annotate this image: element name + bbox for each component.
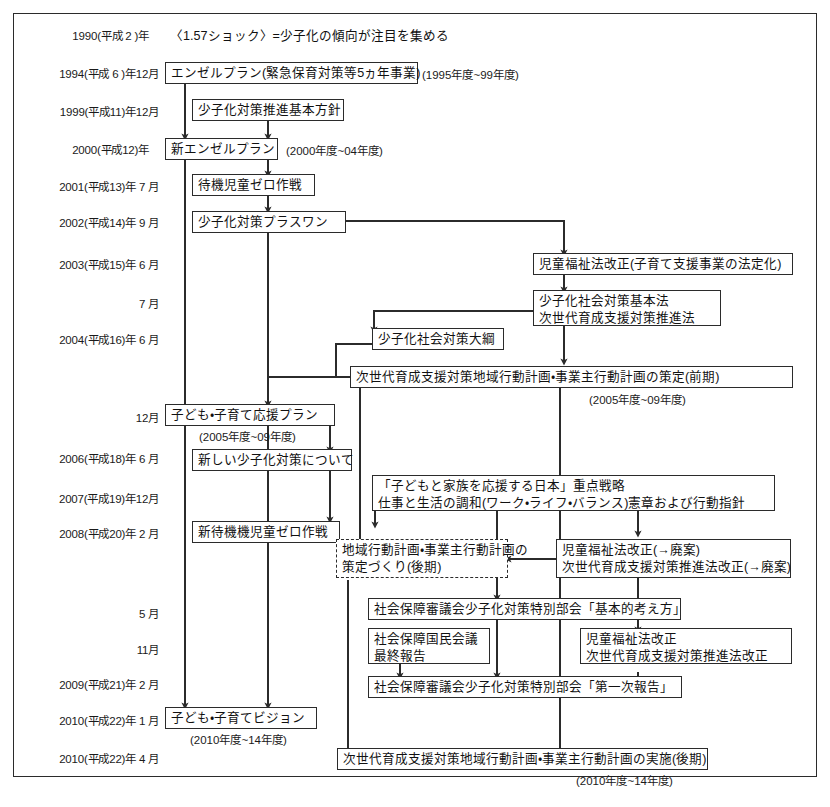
date-label-2003: 2003(平成15)年 6 月 (14, 256, 159, 272)
box-zero-waiting-2001[interactable]: 待機児童ゼロ作戦 (192, 174, 315, 196)
box-new-zero-waiting-2008[interactable]: 新待機機児童ゼロ作戦 (192, 521, 340, 543)
box-national-council-line2: 最終報告 (374, 648, 484, 665)
date-label-1999: 1999(平成11)年12月 (14, 103, 159, 119)
box-local-plan-late[interactable]: 地域行動計画・事業主行動計画の 策定づくり(後期) (336, 539, 508, 578)
date-label-2002: 2002(平成14)年 9 月 (14, 214, 159, 230)
date-label-2004-dec: 12月 (14, 409, 159, 425)
note-angel-plan-period: (1995年度~99年度) (422, 66, 519, 82)
date-label-2003-july: 7 月 (14, 295, 159, 311)
box-law-revision-2008-line2: 次世代育成支援対策推進法改正 (586, 648, 786, 665)
date-label-2008-may: 5 月 (14, 605, 159, 621)
box-local-plan-early[interactable]: 次世代育成支援対策地域行動計画・事業主行動計画の策定(前期) (350, 366, 793, 388)
box-strategy-2007-line1: 「子どもと家族を応援する日本」重点戦略 (378, 478, 769, 495)
date-label-2004: 2004(平成16)年 6 月 (14, 331, 159, 347)
box-new-measures-2006[interactable]: 新しい少子化対策について (192, 449, 352, 471)
box-basic-law-2003-line1: 少子化社会対策基本法 (539, 293, 715, 310)
event-1990-shock: 〈1.57ショック〉=少子化の傾向が注目を集める (170, 25, 449, 44)
box-council-basic-2008[interactable]: 社会保障審議会少子化対策特別部会「基本的考え方」 (368, 598, 681, 620)
box-strategy-2007-line2: 仕事と生活の調和(ワーク・ライフ・バランス)憲章および行動指針 (378, 495, 769, 512)
date-label-2006: 2006(平成18)年 6 月 (14, 450, 159, 466)
box-basic-law-2003-line2: 次世代育成支援対策推進法 (539, 310, 715, 327)
box-outline-2004[interactable]: 少子化社会対策大綱 (372, 328, 504, 350)
box-basic-policy-1999[interactable]: 少子化対策推進基本方針 (192, 99, 344, 121)
note-local-plan-impl-late-period: (2010年度~14年度) (576, 772, 673, 788)
date-label-2009: 2009(平成21)年 2 月 (14, 676, 159, 692)
date-label-2010-apr: 2010(平成22)年 4 月 (14, 750, 159, 766)
box-support-plan-2004[interactable]: 子ども・子育て応援プラン (165, 404, 335, 426)
box-law-revision-2008-line1: 児童福祉法改正 (586, 631, 786, 648)
date-label-2008-nov: 11月 (14, 641, 159, 657)
box-law-revision-abolished-line1: 児童福祉法改正(→廃案) (562, 542, 785, 559)
box-law-revision-2008[interactable]: 児童福祉法改正 次世代育成支援対策推進法改正 (580, 628, 792, 664)
date-label-2000: 2000(平成12)年 (24, 141, 149, 157)
box-strategy-2007[interactable]: 「子どもと家族を応援する日本」重点戦略 仕事と生活の調和(ワーク・ライフ・バラン… (372, 475, 775, 511)
box-local-plan-late-line1: 地域行動計画・事業主行動計画の (342, 542, 502, 559)
box-new-angel-plan[interactable]: 新エンゼルプラン (165, 138, 278, 160)
date-label-2001: 2001(平成13)年 7 月 (14, 178, 159, 194)
box-local-plan-impl-late[interactable]: 次世代育成支援対策地域行動計画・事業主行動計画の実施(後期) (337, 748, 708, 770)
box-local-plan-late-line2: 策定づくり(後期) (342, 559, 502, 576)
box-national-council[interactable]: 社会保障国民会議 最終報告 (368, 628, 490, 664)
box-plus-one-2002[interactable]: 少子化対策プラスワン (192, 211, 346, 233)
timeline-diagram: 1990(平成 2 )年 1994(平成 6 )年12月 1999(平成11)年… (0, 0, 830, 807)
box-basic-law-2003[interactable]: 少子化社会対策基本法 次世代育成支援対策推進法 (533, 290, 721, 326)
date-label-2010-jan: 2010(平成22)年 1 月 (14, 712, 159, 728)
date-label-1994: 1994(平成 6 )年12月 (14, 65, 159, 81)
date-label-2008: 2008(平成20)年 2 月 (14, 525, 159, 541)
date-label-1990: 1990(平成 2 )年 (24, 27, 149, 43)
note-local-plan-early-period: (2005年度~09年度) (589, 391, 686, 407)
box-law-revision-abolished[interactable]: 児童福祉法改正(→廃案) 次世代育成支援対策推進法改正(→廃案) (556, 539, 791, 578)
box-angel-plan[interactable]: エンゼルプラン(緊急保育対策等5ヵ年事業) (165, 62, 418, 84)
box-council-first-report-2009[interactable]: 社会保障審議会少子化対策特別部会「第一次報告」 (368, 676, 682, 698)
box-vision-2010[interactable]: 子ども・子育てビジョン (165, 707, 317, 729)
note-new-angel-plan-period: (2000年度~04年度) (286, 142, 383, 158)
box-national-council-line1: 社会保障国民会議 (374, 631, 484, 648)
box-child-welfare-law-2003[interactable]: 児童福祉法改正(子育て支援事業の法定化) (533, 253, 793, 275)
date-label-2007: 2007(平成19)年12月 (14, 490, 159, 506)
note-vision-2010-period: (2010年度~14年度) (190, 731, 287, 747)
box-law-revision-abolished-line2: 次世代育成支援対策推進法改正(→廃案) (562, 559, 785, 576)
note-support-plan-2004-period: (2005年度~09年度) (199, 428, 296, 444)
